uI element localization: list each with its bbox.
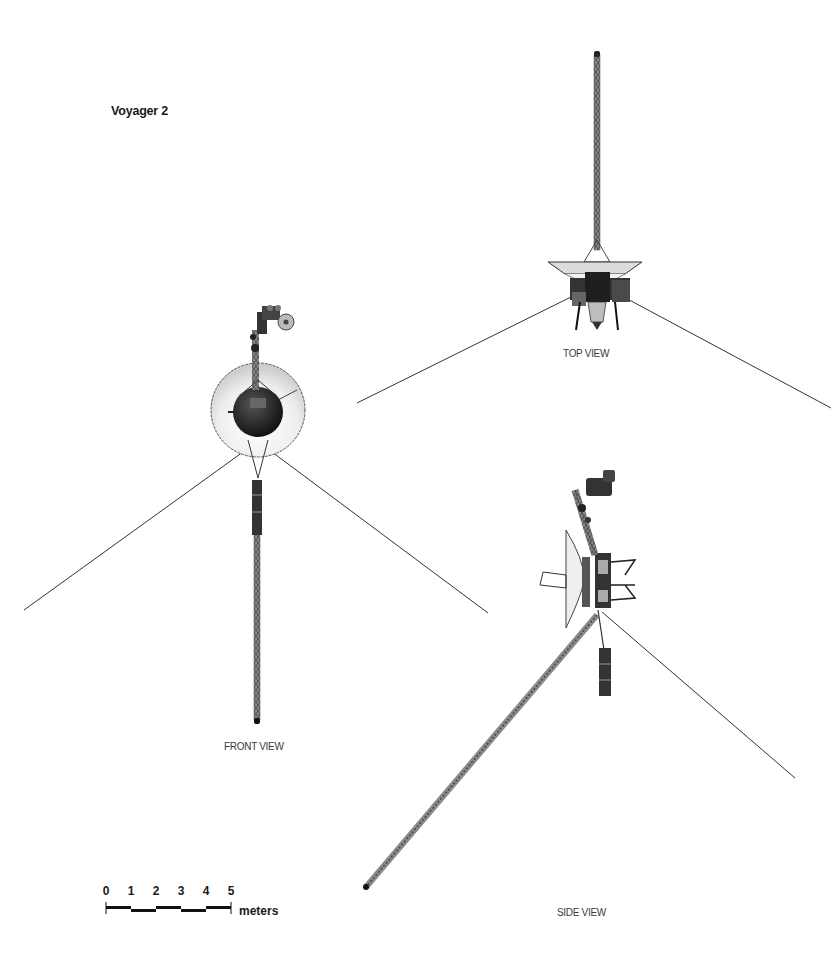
scale-bar: 0 1 2 3 4 5 meters: [100, 884, 300, 924]
side-view-label: SIDE VIEW: [557, 907, 606, 918]
front-view-drawing: [24, 305, 488, 724]
spacecraft-drawings: [0, 0, 837, 967]
scale-tick-label: 1: [128, 884, 135, 898]
scale-tick-label: 3: [178, 884, 185, 898]
scale-tick-label: 0: [103, 884, 110, 898]
scale-unit-label: meters: [239, 904, 278, 918]
side-view-drawing: [363, 470, 795, 890]
front-view-label: FRONT VIEW: [224, 741, 284, 752]
scale-tick-label: 5: [228, 884, 235, 898]
top-view-label: TOP VIEW: [563, 348, 609, 359]
scale-tick-label: 2: [153, 884, 160, 898]
scale-tick-label: 4: [203, 884, 210, 898]
